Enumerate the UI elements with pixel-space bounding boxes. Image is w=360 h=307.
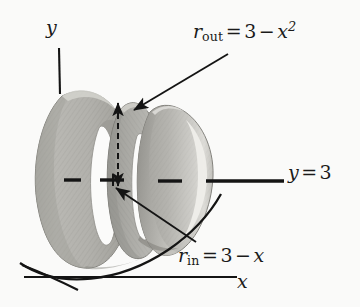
r-in-three: 3 bbox=[220, 244, 232, 266]
r-out-exponent: 2 bbox=[288, 19, 296, 34]
r-out-equals: = bbox=[223, 20, 244, 42]
r-in-x: x bbox=[253, 244, 264, 266]
label-r-in: rin=3−x bbox=[178, 246, 264, 268]
r-in-subscript: in bbox=[187, 253, 199, 268]
r-out-three: 3 bbox=[244, 20, 256, 42]
solid-of-revolution-figure: rout=3−x2 rin=3−x y=3 y x bbox=[0, 0, 360, 307]
r-in-equals: = bbox=[200, 244, 221, 266]
axis-value: 3 bbox=[320, 161, 332, 183]
r-out-symbol: r bbox=[193, 20, 202, 42]
r-in-symbol: r bbox=[178, 244, 187, 266]
axis-y-symbol: y bbox=[288, 161, 299, 183]
r-out-subscript: out bbox=[202, 29, 223, 44]
r-out-x: x bbox=[277, 20, 288, 42]
label-y-axis: y bbox=[46, 18, 57, 37]
label-x-axis: x bbox=[237, 272, 248, 291]
r-out-minus: − bbox=[256, 20, 277, 42]
label-r-out: rout=3−x2 bbox=[193, 21, 296, 44]
label-axis-of-revolution: y=3 bbox=[288, 163, 332, 182]
axis-equals: = bbox=[299, 161, 320, 183]
r-in-minus: − bbox=[233, 244, 254, 266]
y-axis-line bbox=[59, 48, 60, 94]
r-out-leader-line[interactable] bbox=[134, 54, 228, 110]
